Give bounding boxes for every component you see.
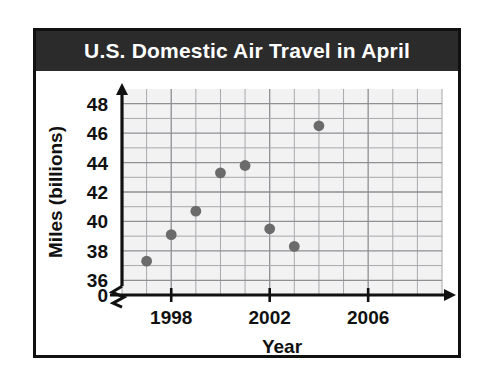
y-tick-label: 46 — [87, 123, 108, 144]
x-axis-title: Year — [262, 336, 303, 357]
y-origin-label: 0 — [97, 285, 108, 306]
grid-layer — [122, 89, 442, 295]
y-tick-label: 48 — [87, 94, 108, 115]
y-axis-title: Miles (billions) — [45, 126, 66, 258]
data-point — [141, 256, 152, 267]
data-point — [240, 160, 251, 171]
y-tick-label: 40 — [87, 211, 108, 232]
x-tick-label: 2006 — [347, 307, 389, 328]
plot-area: 363840424446480 199820022006 YearMiles (… — [36, 71, 458, 357]
data-point — [215, 167, 226, 178]
x-tick-label: 2002 — [249, 307, 291, 328]
page-title: U.S. Domestic Air Travel in April — [84, 39, 410, 63]
x-tick-label: 1998 — [150, 307, 192, 328]
y-axis-tick-labels: 363840424446480 — [87, 94, 109, 306]
chart-card: U.S. Domestic Air Travel in April 363840… — [33, 28, 461, 358]
chart-title-bar: U.S. Domestic Air Travel in April — [36, 31, 458, 71]
scatter-plot: 363840424446480 199820022006 YearMiles (… — [36, 71, 458, 357]
data-point — [289, 241, 300, 252]
data-point — [314, 120, 325, 131]
data-point — [190, 206, 201, 217]
y-tick-label: 38 — [87, 241, 108, 262]
y-tick-label: 44 — [87, 153, 109, 174]
data-point — [264, 223, 275, 234]
data-point — [166, 229, 177, 240]
y-tick-label: 42 — [87, 182, 108, 203]
